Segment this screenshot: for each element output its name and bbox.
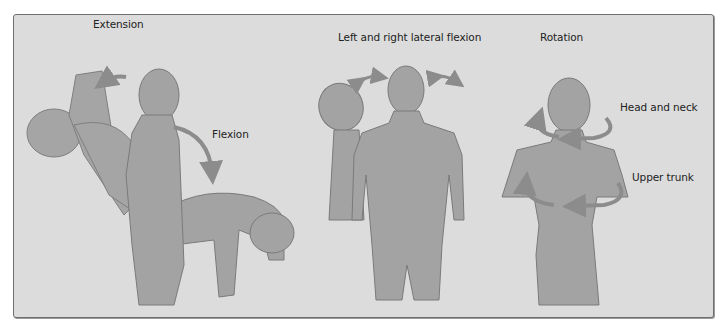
- rotation-title: Rotation: [540, 31, 583, 43]
- head-and-neck-label: Head and neck: [620, 101, 698, 113]
- rotation-figure: [502, 78, 628, 305]
- figure-illustrations: [14, 15, 713, 317]
- extension-arrow-icon: [104, 77, 126, 82]
- flexion-label: Flexion: [212, 128, 249, 140]
- spine-movements-figure: Extension Flexion Left and right lateral…: [13, 14, 714, 318]
- lateral-flexion-figures: [312, 66, 464, 300]
- upright-figure: [126, 69, 184, 305]
- upper-trunk-label: Upper trunk: [632, 171, 694, 183]
- lateral-left-arrow-icon: [359, 77, 380, 82]
- extension-figure: [27, 71, 139, 215]
- flexion-extension-figures: [27, 69, 294, 305]
- lateral-flexion-title: Left and right lateral flexion: [338, 31, 481, 43]
- lateral-right-arrow-icon: [436, 77, 457, 82]
- upright-front-figure: [352, 66, 464, 300]
- extension-label: Extension: [93, 18, 144, 30]
